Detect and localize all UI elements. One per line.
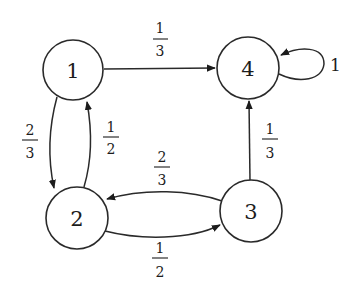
node-3-label: 3 [244, 200, 257, 224]
edge-3-to-2: 2 3 [107, 149, 222, 201]
node-1: 1 [43, 40, 103, 100]
node-3: 3 [220, 180, 282, 242]
edge-3-4-numerator: 1 [266, 121, 275, 137]
edge-3-to-4: 1 3 [249, 101, 278, 181]
arrow-3-to-4 [249, 101, 250, 181]
arrow-2-to-1 [84, 102, 90, 187]
edge-1-2-numerator: 2 [26, 122, 35, 138]
edge-1-to-2: 2 3 [22, 97, 57, 188]
edge-2-3-denominator: 2 [156, 264, 165, 280]
node-1-label: 1 [66, 59, 79, 83]
edge-1-2-denominator: 3 [26, 145, 35, 161]
state-diagram: 1 3 2 3 1 2 2 3 1 2 1 3 1 [0, 0, 360, 296]
edge-3-4-denominator: 3 [266, 145, 275, 161]
edge-1-4-denominator: 3 [156, 43, 165, 59]
edge-1-to-4: 1 3 [104, 20, 215, 69]
arrow-3-to-2 [107, 192, 222, 201]
edge-4-4-label: 1 [330, 55, 341, 75]
edge-4-self-loop: 1 [279, 49, 341, 79]
edge-3-2-denominator: 3 [158, 172, 167, 188]
edge-2-1-numerator: 1 [107, 119, 116, 135]
edge-2-1-denominator: 2 [107, 141, 116, 157]
arrow-4-self-loop [279, 49, 324, 79]
node-2-label: 2 [70, 207, 83, 231]
edge-2-3-numerator: 1 [156, 240, 165, 256]
edge-2-to-1: 1 2 [84, 102, 119, 187]
node-4: 4 [217, 37, 279, 99]
arrow-2-to-3 [105, 225, 220, 237]
edge-2-to-3: 1 2 [105, 225, 220, 280]
edge-3-2-numerator: 2 [158, 149, 167, 165]
edge-1-4-numerator: 1 [156, 20, 165, 36]
node-2: 2 [46, 187, 108, 249]
node-4-label: 4 [241, 57, 254, 81]
arrow-1-to-4 [104, 68, 215, 69]
arrow-1-to-2 [50, 97, 57, 188]
